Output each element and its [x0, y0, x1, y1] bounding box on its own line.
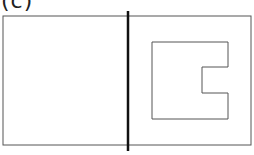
diagram-canvas: [0, 0, 254, 155]
notched-inner-shape: [152, 42, 228, 119]
